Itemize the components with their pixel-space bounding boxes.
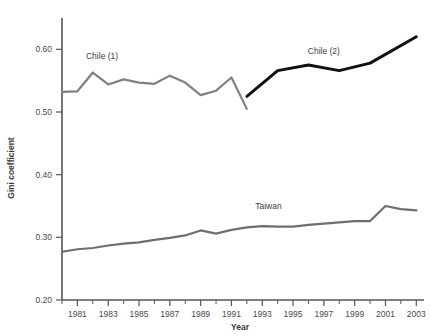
y-tick-label: 0.50 bbox=[35, 107, 52, 117]
chart-canvas: 0.200.300.400.500.60 1981198319851987198… bbox=[0, 0, 431, 336]
x-axis-title: Year bbox=[231, 322, 250, 332]
series-line-chile-1 bbox=[62, 73, 247, 109]
x-tick-label: 1981 bbox=[68, 309, 87, 319]
y-axis-title: Gini coefficient bbox=[6, 137, 16, 199]
series-line-taiwan bbox=[62, 206, 416, 252]
x-tick-label: 1985 bbox=[130, 309, 149, 319]
x-tick-label: 2001 bbox=[376, 309, 395, 319]
y-tick-group: 0.200.300.400.500.60 bbox=[35, 44, 62, 305]
y-tick-label: 0.40 bbox=[35, 170, 52, 180]
x-tick-label: 1997 bbox=[314, 309, 333, 319]
y-tick-label: 0.60 bbox=[35, 44, 52, 54]
x-tick-label: 1999 bbox=[345, 309, 364, 319]
series-annotation-group: Chile (1)Chile (2)Taiwan bbox=[86, 46, 340, 210]
x-tick-label: 1987 bbox=[160, 309, 179, 319]
x-tick-label: 1995 bbox=[284, 309, 303, 319]
x-tick-label: 1989 bbox=[191, 309, 210, 319]
gini-coefficient-chart: 0.200.300.400.500.60 1981198319851987198… bbox=[0, 0, 431, 336]
x-tick-label: 1983 bbox=[99, 309, 118, 319]
x-tick-label: 1991 bbox=[222, 309, 241, 319]
series-annotation-label: Chile (2) bbox=[308, 46, 340, 56]
y-tick-label: 0.30 bbox=[35, 232, 52, 242]
series-annotation-label: Chile (1) bbox=[86, 51, 118, 61]
x-tick-label: 2003 bbox=[407, 309, 426, 319]
series-annotation-label: Taiwan bbox=[255, 201, 282, 211]
y-tick-label: 0.20 bbox=[35, 295, 52, 305]
x-tick-label: 1993 bbox=[253, 309, 272, 319]
